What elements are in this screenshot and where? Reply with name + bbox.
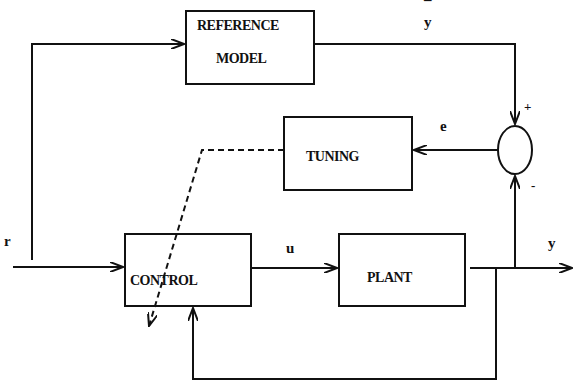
model-output-line	[314, 44, 515, 124]
plant-label: PLANT	[367, 270, 412, 286]
reference-model-label-line1: REFERENCE	[197, 18, 279, 34]
summing-junction	[498, 126, 532, 174]
control-signal-label: u	[286, 240, 294, 257]
reference-model-label-line2: MODEL	[216, 51, 266, 67]
junction-plus-sign: +	[524, 99, 531, 115]
control-label: CONTROL	[130, 273, 197, 289]
tuning-label: TUNING	[306, 149, 359, 165]
plant-output-label: y	[548, 235, 556, 252]
reference-signal-label: r	[4, 233, 11, 250]
model-output-label: y	[424, 14, 432, 31]
reference-to-model-line	[32, 44, 184, 260]
diagram-canvas	[0, 0, 574, 390]
junction-minus-sign: -	[531, 178, 535, 194]
tuning-adjust-line	[149, 150, 284, 326]
feedback-line	[193, 268, 496, 379]
control-block	[125, 234, 251, 306]
error-signal-label: e	[440, 118, 447, 135]
model-output-bar: ¯	[424, 0, 432, 15]
